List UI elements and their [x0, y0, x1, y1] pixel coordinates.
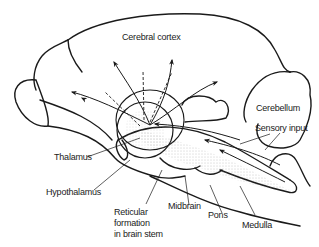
cerebrum-outline	[68, 14, 290, 72]
label-pons: Pons	[208, 210, 228, 220]
olfactory-bulb	[15, 80, 48, 126]
label-midbrain: Midbrain	[168, 201, 201, 211]
label-reticular-line3: in brain stem	[114, 229, 163, 239]
label-sensory-input: Sensory input	[255, 123, 307, 133]
label-reticular-line1: Reticular	[114, 207, 148, 217]
label-reticular-line2: formation	[114, 218, 150, 228]
label-thalamus: Thalamus	[54, 152, 92, 162]
label-cerebellum: Cerebellum	[256, 103, 300, 113]
brain-diagram: Cerebral cortex Cerebellum Sensory input…	[0, 0, 319, 247]
label-hypothalamus: Hypothalamus	[46, 187, 101, 197]
label-cerebral-cortex: Cerebral cortex	[122, 32, 181, 42]
label-medulla: Medulla	[242, 220, 272, 230]
